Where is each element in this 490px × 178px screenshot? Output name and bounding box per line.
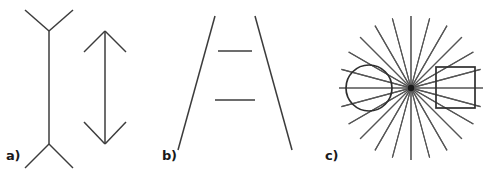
illusion-figure: a) b) c) xyxy=(0,0,490,178)
illusion-canvas xyxy=(0,0,490,178)
muller-lyer-fins-outward xyxy=(25,10,73,168)
fin-top-right xyxy=(49,10,73,31)
panel-label-b: b) xyxy=(162,149,177,162)
radiating-center-dot xyxy=(408,85,414,91)
fin-bottom-left xyxy=(25,144,49,168)
arrowhead-bottom-right xyxy=(105,122,126,144)
arrowhead-top-left xyxy=(84,31,105,52)
panel-a-muller-lyer xyxy=(25,10,126,168)
converging-line-right xyxy=(255,16,292,150)
arrowhead-top-right xyxy=(105,31,126,52)
fin-top-left xyxy=(25,10,49,31)
arrowhead-bottom-left xyxy=(84,122,105,144)
converging-line-left xyxy=(178,16,215,150)
panel-label-c: c) xyxy=(325,149,338,162)
panel-label-a: a) xyxy=(6,149,20,162)
muller-lyer-arrowheads-inward xyxy=(84,31,126,144)
fin-bottom-right xyxy=(49,144,73,168)
panel-b-ponzo xyxy=(178,16,292,150)
panel-c-orbison xyxy=(339,16,483,160)
